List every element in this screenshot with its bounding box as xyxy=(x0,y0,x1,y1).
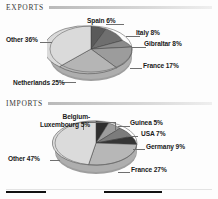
leader-germany xyxy=(133,149,145,150)
exports-section-header: EXPORTS xyxy=(6,3,212,12)
bottom-bar-right xyxy=(104,191,162,194)
exports-pie-graphic xyxy=(47,18,135,88)
imports-section-header: IMPORTS xyxy=(6,99,212,108)
label-france-exports: France 17% xyxy=(143,62,179,70)
label-spain: Spain 6% xyxy=(87,17,116,25)
exports-rule xyxy=(49,6,212,9)
label-guinea: Guinea 5% xyxy=(130,119,163,127)
imports-title: IMPORTS xyxy=(6,99,43,108)
label-belgium-line1: Belgium- xyxy=(63,113,90,120)
label-germany: Germany 9% xyxy=(146,143,185,151)
label-belgium-line2: Luxembourg 5% xyxy=(40,121,90,128)
leader-france xyxy=(130,68,142,69)
leader-france-imports xyxy=(118,172,130,173)
label-usa: USA 7% xyxy=(141,130,165,138)
leader-other-imports xyxy=(50,160,60,161)
infographic-page: EXPORTS xyxy=(0,0,218,199)
label-other-exports: Other 36% xyxy=(6,36,38,44)
leader-guinea xyxy=(118,126,130,127)
label-belgium-luxembourg: Belgium- Luxembourg 5% xyxy=(20,113,90,128)
exports-chart: Spain 6% Italy 8% Gibraltar 8% France 17… xyxy=(0,12,218,96)
label-italy: Italy 8% xyxy=(136,29,160,37)
leader-other-exports xyxy=(40,42,52,43)
label-other-imports: Other 47% xyxy=(8,155,40,163)
leader-belgium-drop2 xyxy=(115,122,116,130)
bottom-bar-left xyxy=(6,191,46,194)
exports-title: EXPORTS xyxy=(6,3,44,12)
imports-chart: Belgium- Luxembourg 5% Guinea 5% USA 7% … xyxy=(0,110,218,188)
imports-rule xyxy=(48,102,212,105)
label-netherlands: Netherlands 25% xyxy=(13,79,65,87)
leader-usa xyxy=(126,136,138,137)
label-france-imports: France 27% xyxy=(131,166,167,174)
label-gibraltar: Gibraltar 8% xyxy=(144,40,182,48)
